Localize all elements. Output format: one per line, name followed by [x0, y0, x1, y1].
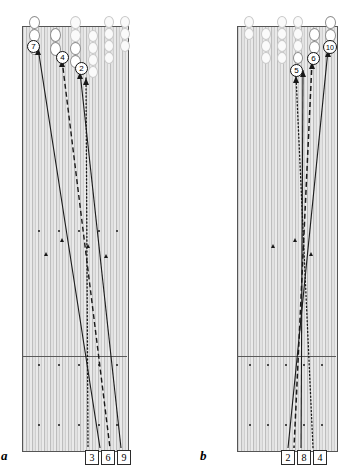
triangle-marker — [293, 238, 297, 242]
bottom-label-a-1: 6 — [101, 450, 115, 465]
numbered-marker-b-2: 10 — [323, 40, 337, 54]
point-marker — [303, 424, 305, 426]
numbered-marker-a-2: 2 — [75, 62, 88, 75]
lane-marker-ellipse — [70, 16, 81, 29]
panel-b — [237, 26, 336, 450]
lane-marker-ellipse — [277, 16, 287, 28]
panel-a-lane-background — [22, 26, 129, 452]
lane-marker-ellipse — [88, 42, 98, 54]
lane-marker-ellipse — [309, 28, 320, 41]
lane-marker-ellipse — [29, 16, 40, 29]
numbered-marker-b-1: 6 — [307, 52, 320, 65]
bottom-label-b-0: 2 — [281, 450, 295, 465]
bottom-label-a-2: 9 — [117, 450, 131, 465]
point-marker — [38, 364, 40, 366]
numbered-marker-a-1: 4 — [56, 51, 69, 64]
point-marker — [285, 424, 287, 426]
triangle-marker — [271, 244, 275, 248]
lane-marker-ellipse — [104, 28, 114, 40]
lane-marker-ellipse — [277, 40, 287, 52]
point-marker — [98, 364, 100, 366]
triangle-marker — [86, 244, 90, 248]
lane-marker-ellipse — [88, 30, 98, 42]
lane-marker-ellipse — [50, 28, 61, 42]
triangle-marker — [60, 238, 64, 242]
lane-marker-ellipse — [277, 28, 287, 40]
lane-marker-ellipse — [88, 54, 98, 66]
lane-marker-ellipse — [293, 28, 303, 40]
point-marker — [98, 230, 100, 232]
point-marker — [78, 364, 80, 366]
lane-marker-ellipse — [120, 16, 130, 28]
panel-letter-b: b — [200, 448, 207, 464]
lane-marker-ellipse — [104, 16, 114, 28]
lane-marker-ellipse — [120, 40, 130, 52]
figure-root: 7 4 2 5 6 10 3 6 9 2 8 4 a b — [0, 0, 346, 473]
bottom-label-b-1: 8 — [297, 450, 311, 465]
lane-marker-ellipse — [244, 28, 254, 40]
point-marker — [267, 364, 269, 366]
triangle-marker — [104, 254, 108, 258]
point-marker — [78, 424, 80, 426]
point-marker — [58, 424, 60, 426]
lane-marker-ellipse — [261, 40, 271, 52]
point-marker — [78, 230, 80, 232]
triangle-marker — [309, 252, 313, 256]
panel-letter-a: a — [1, 448, 8, 464]
lane-marker-ellipse — [88, 66, 98, 78]
lane-marker-ellipse — [104, 52, 114, 64]
point-marker — [116, 364, 118, 366]
point-marker — [285, 364, 287, 366]
point-marker — [116, 424, 118, 426]
lane-marker-ellipse — [325, 16, 336, 29]
lane-marker-ellipse — [293, 16, 303, 28]
lane-marker-ellipse — [70, 29, 81, 42]
numbered-marker-b-0: 5 — [290, 64, 303, 77]
panel-b-lane-background — [237, 26, 338, 452]
point-marker — [249, 424, 251, 426]
point-marker — [249, 364, 251, 366]
point-marker — [38, 424, 40, 426]
point-marker — [321, 364, 323, 366]
lane-marker-ellipse — [277, 52, 287, 64]
point-marker — [116, 230, 118, 232]
lane-marker-ellipse — [104, 40, 114, 52]
lane-marker-ellipse — [293, 40, 303, 52]
point-marker — [98, 424, 100, 426]
point-marker — [321, 424, 323, 426]
lane-marker-ellipse — [70, 42, 81, 55]
panel-b-divider — [237, 356, 336, 357]
bottom-label-a-0: 3 — [85, 450, 99, 465]
lane-marker-ellipse — [261, 28, 271, 40]
panel-a — [22, 26, 127, 450]
panel-a-divider — [22, 356, 127, 357]
point-marker — [267, 424, 269, 426]
point-marker — [58, 230, 60, 232]
numbered-marker-a-0: 7 — [27, 40, 40, 53]
lane-marker-ellipse — [120, 28, 130, 40]
point-marker — [58, 364, 60, 366]
lane-marker-ellipse — [261, 52, 271, 64]
lane-marker-ellipse — [293, 52, 303, 64]
triangle-marker — [44, 252, 48, 256]
point-marker — [38, 230, 40, 232]
point-marker — [303, 364, 305, 366]
lane-marker-ellipse — [244, 16, 254, 28]
bottom-label-b-2: 4 — [313, 450, 327, 465]
